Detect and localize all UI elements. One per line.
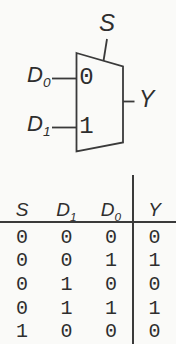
table-cell: 0 [16,299,28,319]
table-cell: 0 [105,228,117,248]
mux-port-1-label: 1 [78,115,95,139]
table-cell: 0 [105,322,117,342]
table-cell: 1 [60,299,72,319]
table-cell: 0 [60,251,72,271]
mux-port-0-label: 0 [78,66,95,90]
table-cell: 0 [16,251,28,271]
table-body: 0 0 0 0 0 0 1 1 0 1 0 0 0 1 1 1 [0,226,176,344]
truth-table: S D1 D0 Y 0 0 0 0 0 0 1 1 0 1 0 0 [0,173,176,344]
input-d0-label-subscript: 0 [43,75,51,90]
table-cell: 1 [105,251,117,271]
table-row: 0 0 1 1 [0,250,176,274]
table-cell: 1 [148,251,160,271]
input-d1-label-text: D [27,111,43,136]
table-cell: 0 [60,322,72,342]
select-wire [104,39,108,61]
table-row: 0 0 0 0 [0,226,176,250]
output-label-text: Y [139,86,154,112]
table-header-d0-text: D [101,199,115,220]
table-cell: 1 [105,299,117,319]
table-cell: 0 [148,228,160,248]
table-header-s-text: S [16,199,29,220]
table-header-d0-subscript: 0 [115,210,122,223]
input-d1-label-subscript: 1 [43,124,51,139]
table-cell: 0 [16,275,28,295]
table-cell: 1 [148,299,160,319]
table-header-d1-subscript: 1 [70,210,77,223]
table-header-d1: D1 [56,200,76,219]
select-label-text: S [99,9,115,36]
table-cell: 0 [16,228,28,248]
table-row: 0 1 1 1 [0,297,176,321]
table-cell: 1 [60,275,72,295]
table-header-d0: D0 [101,200,121,219]
table-header-d1-text: D [56,199,70,220]
table-cell: 0 [105,275,117,295]
input-d0-label: D0 [27,64,50,86]
table-cell: 0 [148,275,160,295]
table-row: 0 1 0 0 [0,273,176,297]
table-header-s: S [16,200,29,219]
input-d1-label: D1 [27,113,50,135]
table-header-y-text: Y [148,199,161,220]
table-cell: 0 [148,322,160,342]
table-row: 1 0 0 0 [0,320,176,344]
table-header-y: Y [148,200,161,219]
input-d0-label-text: D [27,62,43,87]
table-header-rule [0,221,176,223]
table-cell: 1 [16,322,28,342]
table-header-row: S D1 D0 Y [0,173,176,221]
select-label: S [96,11,118,35]
output-label: Y [139,88,154,111]
table-cell: 0 [60,228,72,248]
mux-figure: S D0 D1 Y 0 1 S D1 D0 Y 0 0 0 0 0 0 1 [0,0,176,344]
